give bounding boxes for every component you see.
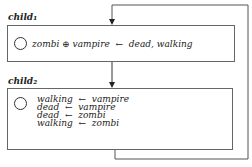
- node-label-child2: child₂: [8, 76, 37, 86]
- rule-line: zombi ⊕ vampire ← dead, walking: [32, 40, 193, 48]
- circle-icon: [14, 97, 27, 110]
- rule-line: walking ← zombi: [37, 119, 119, 127]
- node-child1: zombi ⊕ vampire ← dead, walking: [7, 25, 235, 62]
- circle-icon: [14, 37, 27, 50]
- node-child2: walking ← vampire dead ← vampire dead ← …: [7, 88, 233, 150]
- node-label-child1: child₁: [8, 12, 37, 22]
